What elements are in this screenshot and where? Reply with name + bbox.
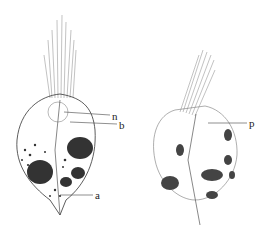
- label-n: n: [112, 111, 118, 122]
- left-cell: [17, 15, 117, 215]
- label-b: b: [119, 120, 125, 131]
- right-tuft: [180, 50, 215, 116]
- label-a: a: [95, 190, 100, 201]
- illustration: [0, 0, 262, 233]
- left-granules: [21, 137, 93, 197]
- right-cell: [154, 50, 247, 225]
- left-tuft: [44, 15, 76, 98]
- right-granules: [161, 129, 235, 199]
- label-p: p: [249, 118, 255, 129]
